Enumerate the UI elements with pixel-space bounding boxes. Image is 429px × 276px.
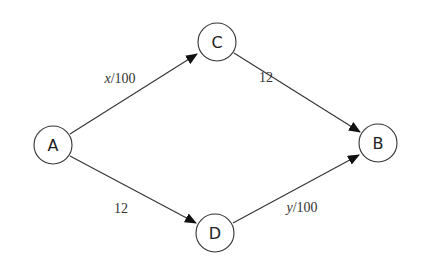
- edge-a-c: [70, 54, 197, 134]
- edge-label-a-d-rest: 12: [114, 201, 128, 216]
- edge-label-c-b-rest: 12: [259, 70, 273, 85]
- network-diagram: x/100 12 12 y/100 A C B D: [0, 0, 429, 276]
- edge-label-d-b: y/100: [284, 200, 317, 215]
- node-b: B: [359, 124, 397, 162]
- edge-a-d: [70, 156, 196, 223]
- edge-label-a-c-rest: /100: [111, 71, 136, 86]
- edge-c-b: [234, 53, 360, 132]
- edge-label-d-b-rest: /100: [293, 200, 318, 215]
- node-b-label: B: [373, 134, 384, 153]
- node-d: D: [196, 214, 234, 252]
- edge-label-a-d: 12: [114, 201, 128, 216]
- node-c: C: [198, 23, 236, 61]
- node-c-label: C: [211, 33, 222, 52]
- edge-label-c-b: 12: [259, 70, 273, 85]
- node-a: A: [34, 126, 72, 164]
- edge-label-a-c: x/100: [103, 71, 135, 86]
- node-a-label: A: [48, 136, 59, 155]
- node-d-label: D: [209, 224, 221, 243]
